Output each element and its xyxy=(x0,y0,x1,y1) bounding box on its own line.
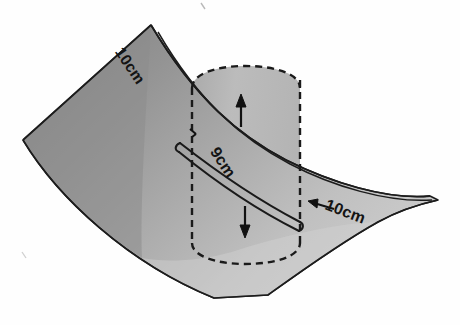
stray-mark-left xyxy=(22,252,26,258)
figure-root: 10cm 9cm 10cm xyxy=(0,0,460,325)
stray-mark-top xyxy=(201,3,205,9)
